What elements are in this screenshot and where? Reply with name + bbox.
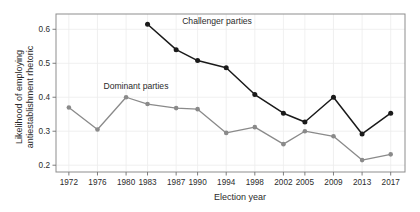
data-point [145,22,150,27]
data-point [124,95,129,100]
x-tick-label: 1998 [246,178,265,187]
x-tick-label: 2013 [353,178,372,187]
data-point [302,120,307,125]
data-point [174,106,179,111]
data-point [331,134,336,139]
data-point [253,125,258,130]
data-point [388,152,393,157]
panel-border [56,14,405,172]
line-chart: 0.20.30.40.50.6 197219761980198319871990… [0,0,420,212]
y-axis-title-line2: antiestablishment rhetoric [25,45,35,148]
x-tick-label: 2009 [324,178,343,187]
x-tick-label: 1972 [60,178,79,187]
series-label-challenger: Challenger parties [182,16,252,26]
data-point [331,95,336,100]
data-point [224,65,229,70]
data-point [303,129,308,134]
x-tick-label: 2005 [296,178,315,187]
data-point [281,142,286,147]
data-point [195,58,200,63]
data-point [360,158,365,163]
x-tick-label: 1987 [167,178,186,187]
series-challenger [145,22,393,137]
data-point [252,92,257,97]
series-label-dominant: Dominant parties [103,81,168,91]
data-point [95,127,100,132]
y-tick-label: 0.3 [39,127,51,136]
y-axis-title-line1: Likelihood of employing [14,50,24,144]
x-tick-label: 2002 [274,178,293,187]
y-axis: 0.20.30.40.50.6 [39,25,56,170]
data-point [224,131,229,136]
data-point [281,111,286,116]
x-axis-title: Election year [214,192,266,202]
series-group [67,22,394,163]
x-tick-label: 1976 [88,178,107,187]
series-line [69,97,391,160]
y-tick-label: 0.2 [39,161,51,170]
panel-border-group [56,14,405,172]
y-tick-label: 0.5 [39,59,51,68]
series-dominant [67,95,393,162]
gridlines [56,14,405,172]
series-line [148,24,391,134]
x-axis: 1972197619801983198719901994199820022005… [60,172,400,187]
x-tick-label: 2017 [382,178,401,187]
x-tick-label: 1983 [138,178,157,187]
data-point [67,105,72,110]
data-point [174,47,179,52]
y-tick-label: 0.6 [39,25,51,34]
data-point [388,111,393,116]
data-point [360,131,365,136]
chart-container: 0.20.30.40.50.6 197219761980198319871990… [0,0,420,212]
x-tick-label: 1980 [117,178,136,187]
x-tick-label: 1994 [217,178,236,187]
y-tick-label: 0.4 [39,93,51,102]
data-point [195,107,200,112]
data-point [145,102,150,107]
x-tick-label: 1990 [188,178,207,187]
